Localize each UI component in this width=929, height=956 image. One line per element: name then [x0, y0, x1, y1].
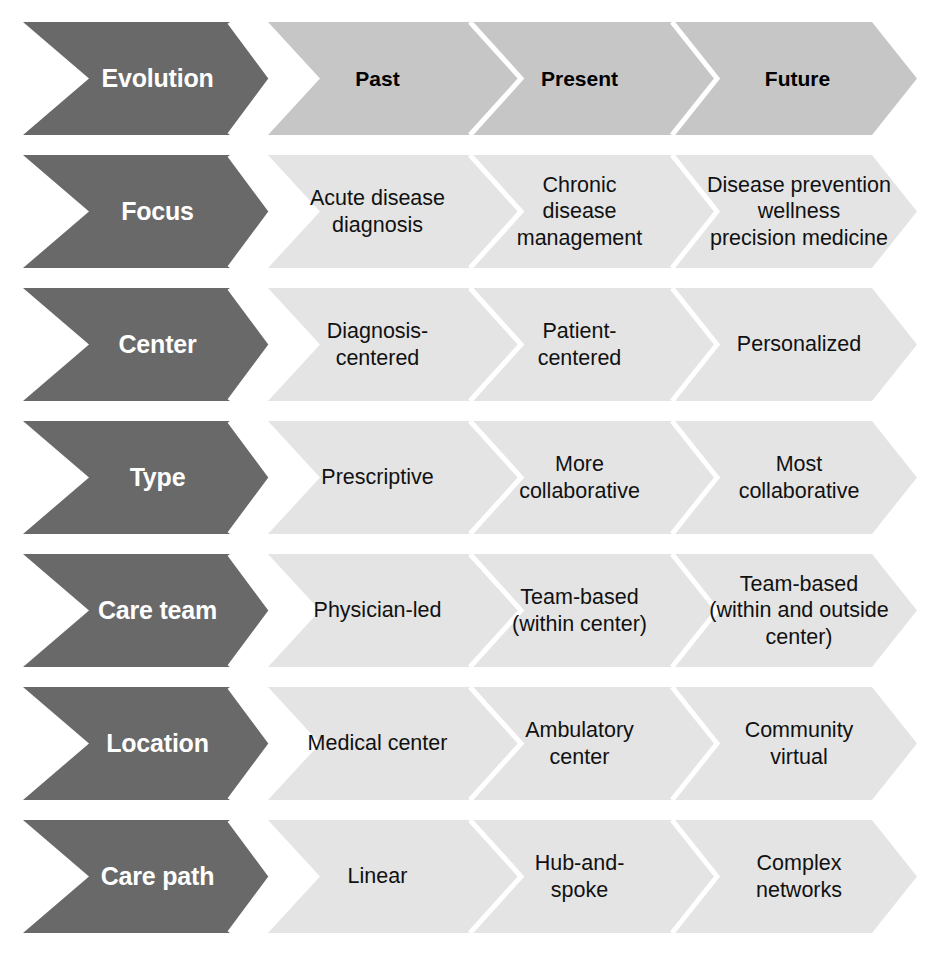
chevron-diagram: EvolutionPastPresentFutureFocusAcute dis… — [0, 0, 929, 956]
row-shapes — [0, 687, 929, 800]
row-shapes — [0, 820, 929, 933]
diagram-row-2: CenterDiagnosis-centeredPatient-centered… — [0, 288, 929, 401]
header-row: EvolutionPastPresentFuture — [0, 22, 929, 135]
label-chevron — [23, 820, 272, 933]
row-shapes — [0, 421, 929, 534]
diagram-row-3: TypePrescriptiveMorecollaborativeMostcol… — [0, 421, 929, 534]
row-shapes — [0, 554, 929, 667]
row-shapes — [0, 22, 929, 135]
diagram-row-6: Care pathLinearHub-and-spokeComplexnetwo… — [0, 820, 929, 933]
diagram-row-5: LocationMedical centerAmbulatorycenterCo… — [0, 687, 929, 800]
label-chevron — [23, 22, 272, 135]
label-chevron — [23, 687, 272, 800]
label-chevron — [23, 421, 272, 534]
label-chevron — [23, 288, 272, 401]
label-chevron — [23, 155, 272, 268]
label-chevron — [23, 554, 272, 667]
row-shapes — [0, 155, 929, 268]
diagram-row-4: Care teamPhysician-ledTeam-based(within … — [0, 554, 929, 667]
row-shapes — [0, 288, 929, 401]
diagram-row-1: FocusAcute diseasediagnosisChronicdiseas… — [0, 155, 929, 268]
